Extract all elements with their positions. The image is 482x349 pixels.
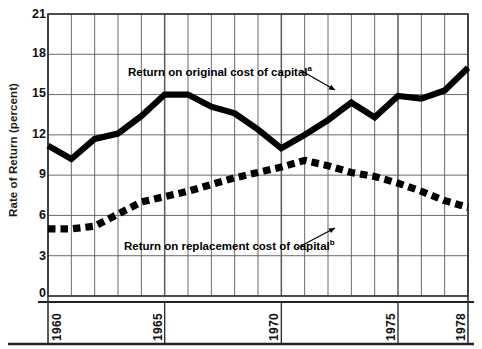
chart-plot-area [0,0,482,349]
chart-figure: Rate of Return (percent) 21 18 15 12 9 6… [0,0,482,349]
x-tick-1960: 1960 [50,313,64,341]
gridlines [48,14,468,296]
x-tick-1975: 1975 [384,313,398,341]
annotation-replacement-cost: Return on replacement cost of capitalb [124,238,335,252]
annotation-replacement-cost-superscript: b [330,238,335,247]
annotation-replacement-cost-label: Return on replacement cost of capital [124,240,330,252]
x-tick-1970: 1970 [267,313,281,341]
annotation-original-cost-label: Return on original cost of capital [128,66,308,78]
x-tick-1965: 1965 [151,313,165,341]
annotation-original-cost: Return on original cost of capitala [128,64,312,78]
annotation-original-cost-superscript: a [308,64,312,73]
x-axis-baseline [38,296,474,343]
x-tick-1978: 1978 [454,313,468,341]
